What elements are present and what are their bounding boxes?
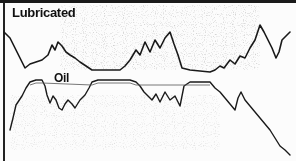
oil-label: Oil [54, 71, 69, 85]
chart-figure: Lubricated Oil [0, 0, 296, 161]
lubricated-label: Lubricated [12, 5, 75, 20]
noise-speckle [10, 5, 260, 150]
plot-area [0, 0, 296, 161]
